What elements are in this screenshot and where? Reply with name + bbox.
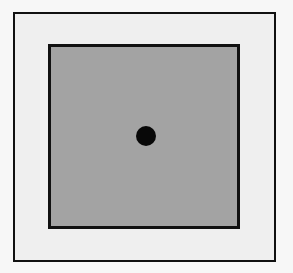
center-dot xyxy=(136,126,156,146)
